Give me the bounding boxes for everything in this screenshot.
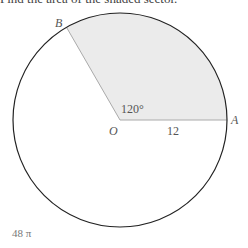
- point-b-label: B: [55, 16, 63, 30]
- sector-diagram: B 120° O 12 A: [0, 0, 248, 248]
- shaded-sector: [67, 13, 228, 120]
- point-a-label: A: [230, 113, 239, 127]
- center-o-label: O: [109, 124, 118, 138]
- angle-label: 120°: [121, 102, 144, 116]
- answer-text: 48 π: [12, 227, 31, 239]
- radius-length-label: 12: [167, 124, 179, 138]
